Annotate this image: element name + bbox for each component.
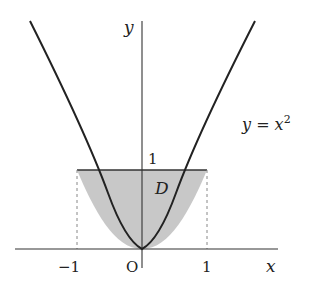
origin-label: O bbox=[126, 258, 138, 276]
x-tick-minus-1: −1 bbox=[58, 258, 80, 276]
parabola-diagram: y x O −1 1 1 D y = x2 bbox=[0, 0, 314, 308]
x-tick-1: 1 bbox=[202, 258, 212, 276]
y-axis-label: y bbox=[123, 17, 134, 37]
y-tick-1: 1 bbox=[148, 150, 158, 168]
curve-equation-label: y = x2 bbox=[241, 113, 291, 134]
x-axis-label: x bbox=[266, 256, 276, 276]
region-d-label: D bbox=[154, 178, 169, 198]
